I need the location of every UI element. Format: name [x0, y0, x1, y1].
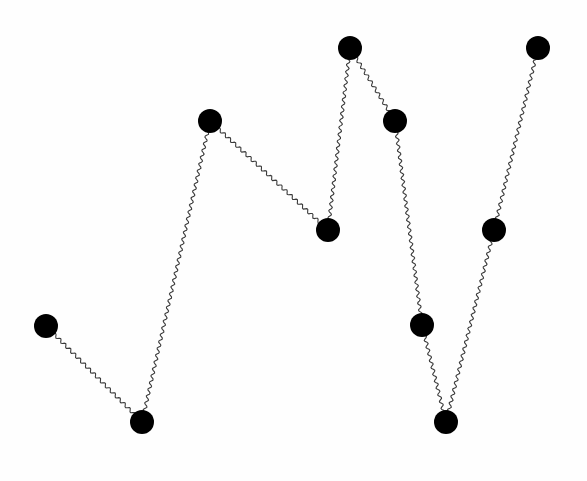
edge-n2-n3	[142, 121, 210, 422]
node-n7	[410, 313, 434, 337]
node-n2	[130, 410, 154, 434]
node-n4	[316, 218, 340, 242]
node-n3	[198, 109, 222, 133]
edge-n4-n5	[327, 48, 350, 230]
node-n5	[338, 36, 362, 60]
graph-canvas	[0, 0, 587, 481]
edge-n3-n4	[210, 121, 328, 230]
edge-n5-n6	[350, 48, 395, 121]
node-n6	[383, 109, 407, 133]
nodes-layer	[34, 36, 550, 434]
node-n8	[434, 410, 458, 434]
edge-n6-n7	[395, 121, 423, 325]
node-n1	[34, 314, 58, 338]
edges-layer	[46, 48, 538, 422]
edge-n1-n2	[46, 326, 142, 422]
edge-n9-n10	[494, 48, 538, 230]
node-n9	[482, 218, 506, 242]
node-n10	[526, 36, 550, 60]
edge-n7-n8	[422, 325, 446, 422]
graph-diagram	[0, 0, 587, 481]
edge-n8-n9	[446, 230, 494, 422]
